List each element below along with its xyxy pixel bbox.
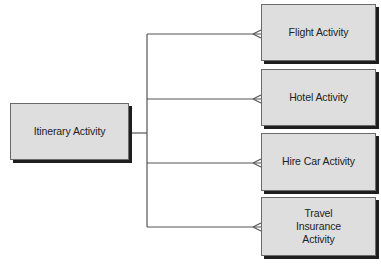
entity-label: Hire Car Activity xyxy=(268,155,369,168)
entity-hire-car-activity: Hire Car Activity xyxy=(261,133,376,191)
entity-label: Flight Activity xyxy=(275,26,363,39)
entity-label: Travel Insurance Activity xyxy=(262,207,375,246)
entity-label: Itinerary Activity xyxy=(20,125,120,138)
entity-travel-insurance-activity: Travel Insurance Activity xyxy=(261,197,376,256)
entity-hotel-activity: Hotel Activity xyxy=(261,69,376,126)
entity-flight-activity: Flight Activity xyxy=(261,4,376,61)
entity-label: Hotel Activity xyxy=(275,91,362,104)
entity-itinerary-activity: Itinerary Activity xyxy=(10,103,129,160)
